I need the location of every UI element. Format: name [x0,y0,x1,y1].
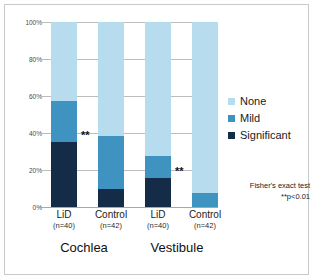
legend-label-none: None [240,95,266,107]
legend-item-significant[interactable]: Significant [228,129,308,141]
bar-control-vestibule[interactable] [192,22,218,207]
bar-lid-cochlea[interactable] [51,22,77,207]
footnote-test-name: Fisher's exact test [218,180,310,191]
x-label-nsize: (n=40) [134,221,182,231]
bar-segment-significant [98,189,124,207]
legend-label-mild: Mild [240,112,260,124]
bar-segment-mild [145,156,171,178]
bar-lid-vestibule[interactable] [145,22,171,207]
significance-mark-lid-vestibule: ** [175,166,184,177]
significance-mark-lid-cochlea: ** [81,130,90,141]
plot-area: ** ** [45,22,218,207]
x-label-nsize: (n=42) [87,221,135,231]
bar-segment-none [51,22,77,101]
legend: None Mild Significant [228,95,308,146]
footnote-significance: **p<0.01 [218,191,310,202]
x-label-name: Control [181,209,229,221]
x-label-nsize: (n=42) [181,221,229,231]
x-axis-baseline [37,207,218,208]
bar-segment-none [145,22,171,156]
bar-control-cochlea[interactable] [98,22,124,207]
figure-container: 100% 80% 60% 40% 20% 0% [0,0,313,279]
supergroup-cochlea: Cochlea [39,240,129,255]
x-axis-labels: LiD (n=40) Control (n=42) LiD (n=40) Con… [45,209,218,243]
bar-segment-none [192,22,218,193]
statistical-footnote: Fisher's exact test **p<0.01 [218,180,310,202]
x-axis-supergroups: Cochlea Vestibule [45,240,218,260]
legend-swatch-mild-icon [228,115,235,122]
bar-segment-mild [51,101,77,143]
x-label-control-cochlea: Control (n=42) [87,209,135,231]
bar-segment-mild [98,136,124,190]
x-label-nsize: (n=40) [40,221,88,231]
x-label-name: LiD [40,209,88,221]
y-axis-labels: 100% 80% 60% 40% 20% 0% [20,22,42,207]
x-label-lid-vestibule: LiD (n=40) [134,209,182,231]
legend-label-significant: Significant [240,129,291,141]
x-label-control-vestibule: Control (n=42) [181,209,229,231]
legend-swatch-none-icon [228,98,235,105]
bar-segment-none [98,22,124,136]
supergroup-vestibule: Vestibule [132,240,222,255]
bar-segment-mild [192,193,218,207]
legend-swatch-significant-icon [228,132,235,139]
x-label-name: Control [87,209,135,221]
x-label-lid-cochlea: LiD (n=40) [40,209,88,231]
legend-item-none[interactable]: None [228,95,308,107]
x-label-name: LiD [134,209,182,221]
bar-segment-significant [145,178,171,207]
bar-segment-significant [51,142,77,207]
legend-item-mild[interactable]: Mild [228,112,308,124]
